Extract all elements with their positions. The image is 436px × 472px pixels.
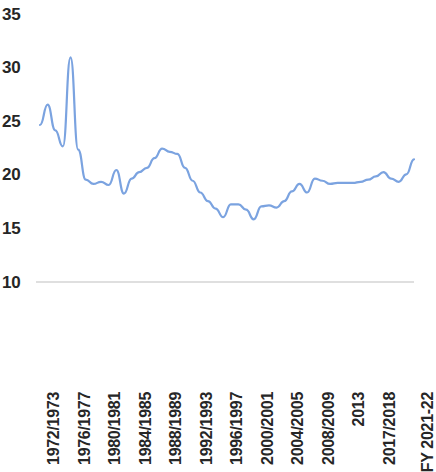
x-tick-label: 1988/1989 [168,392,184,465]
x-tick-label: FY 2021-22 [420,392,436,472]
x-tick-label: 1996/1997 [229,392,245,465]
y-tick-label: 35 [2,5,36,22]
y-tick-label: 15 [2,219,36,236]
x-tick-label: 1992/1993 [199,392,215,465]
x-tick-label: 2017/2018 [382,392,398,465]
y-tick-label: 30 [2,59,36,76]
y-axis: 353025201510 [0,0,36,300]
x-tick-label: 1984/1985 [138,392,154,465]
data-series-line [40,57,414,219]
x-tick-label: 1972/1973 [46,392,62,465]
plot-area [36,0,414,290]
x-axis: 1972/19731976/19771980/19811984/19851988… [36,288,414,396]
x-tick-label: 2004/2005 [290,392,306,465]
x-tick-label: 1976/1977 [77,392,93,465]
plot-svg [36,0,414,290]
x-tick-label: 1980/1981 [107,392,123,465]
x-tick-label: 2013 [351,392,367,426]
x-tick-label: 2008/2009 [321,392,337,465]
y-tick-label: 20 [2,166,36,183]
x-tick-label: 2000/2001 [260,392,276,465]
y-tick-label: 10 [2,273,36,290]
y-tick-label: 25 [2,112,36,129]
